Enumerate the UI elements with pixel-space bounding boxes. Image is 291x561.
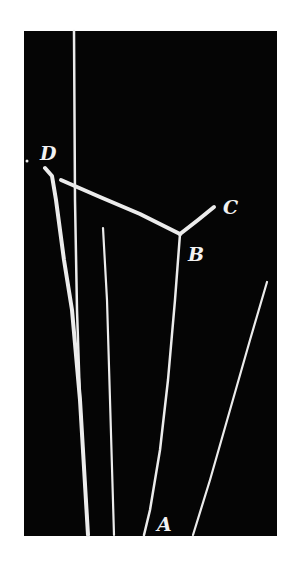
label-C: C [223,196,238,218]
track-photograph: D C B A [0,0,291,561]
label-A: A [155,513,172,535]
label-B: B [187,243,204,265]
dark-plate [24,31,277,536]
particle-track-figure: D C B A [0,0,291,561]
stray-dot [26,160,29,163]
label-D: D [39,142,57,164]
